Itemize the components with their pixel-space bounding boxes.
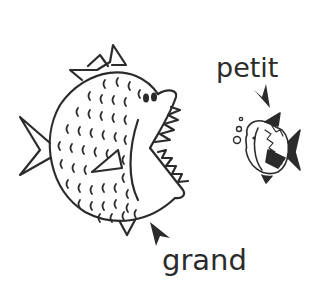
label-grand: grand — [162, 246, 247, 275]
big-fish-eye-right — [151, 93, 157, 102]
arrow-to-small-fish-icon — [254, 84, 270, 108]
big-fish — [20, 45, 188, 235]
small-fish-body — [246, 121, 289, 174]
big-fish-tail — [20, 117, 50, 175]
big-fish-gill — [131, 120, 139, 200]
small-fish — [246, 113, 300, 183]
bubbles — [234, 117, 243, 143]
big-fish-teeth — [155, 107, 180, 142]
small-fish-eye — [252, 136, 255, 139]
label-petit: petit — [216, 54, 278, 81]
small-fish-tail — [288, 130, 300, 170]
fish-illustration — [0, 0, 327, 284]
big-fish-eye-left — [143, 94, 149, 103]
small-fish-top-fin — [265, 113, 280, 126]
